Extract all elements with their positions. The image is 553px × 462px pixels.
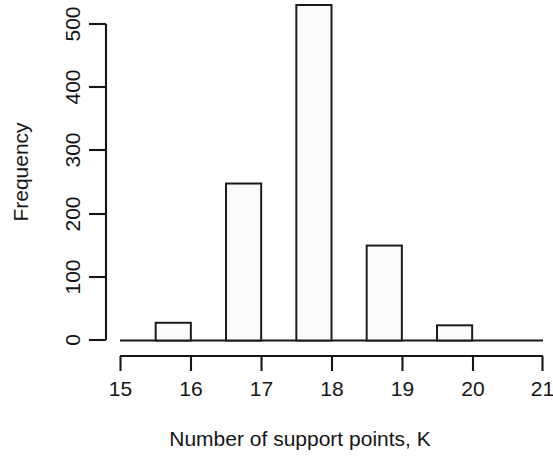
- y-tick-label-500: 500: [61, 6, 84, 41]
- x-tick-label-17: 17: [250, 377, 273, 400]
- x-tick-labels: 15 16 17 18 19 20 21: [109, 377, 553, 400]
- histogram-bars: [156, 5, 473, 340]
- bar-19_5-20: [437, 325, 472, 340]
- y-axis: [89, 24, 106, 340]
- histogram-figure: 500 400 300 200 100 0 Frequency: [0, 0, 553, 462]
- y-axis-title: Frequency: [9, 122, 32, 222]
- bar-15_5-16: [156, 323, 191, 341]
- x-tick-label-19: 19: [391, 377, 414, 400]
- x-tick-label-15: 15: [109, 377, 132, 400]
- x-tick-label-16: 16: [179, 377, 202, 400]
- y-tick-label-100: 100: [61, 259, 84, 294]
- x-axis: [120, 356, 543, 371]
- y-tick-label-0: 0: [61, 334, 84, 346]
- bar-17_5-18: [296, 5, 331, 340]
- x-tick-label-21: 21: [531, 377, 553, 400]
- y-tick-label-300: 300: [61, 132, 84, 167]
- histogram-plot: 500 400 300 200 100 0 Frequency: [0, 0, 553, 462]
- y-tick-label-200: 200: [61, 196, 84, 231]
- x-axis-title: Number of support points, K: [169, 427, 430, 450]
- y-tick-labels: 500 400 300 200 100 0: [61, 6, 84, 345]
- x-tick-label-18: 18: [320, 377, 343, 400]
- bar-16_5-17: [226, 184, 261, 341]
- y-tick-label-400: 400: [61, 69, 84, 104]
- bar-18_5-19: [367, 246, 402, 341]
- x-tick-label-20: 20: [461, 377, 484, 400]
